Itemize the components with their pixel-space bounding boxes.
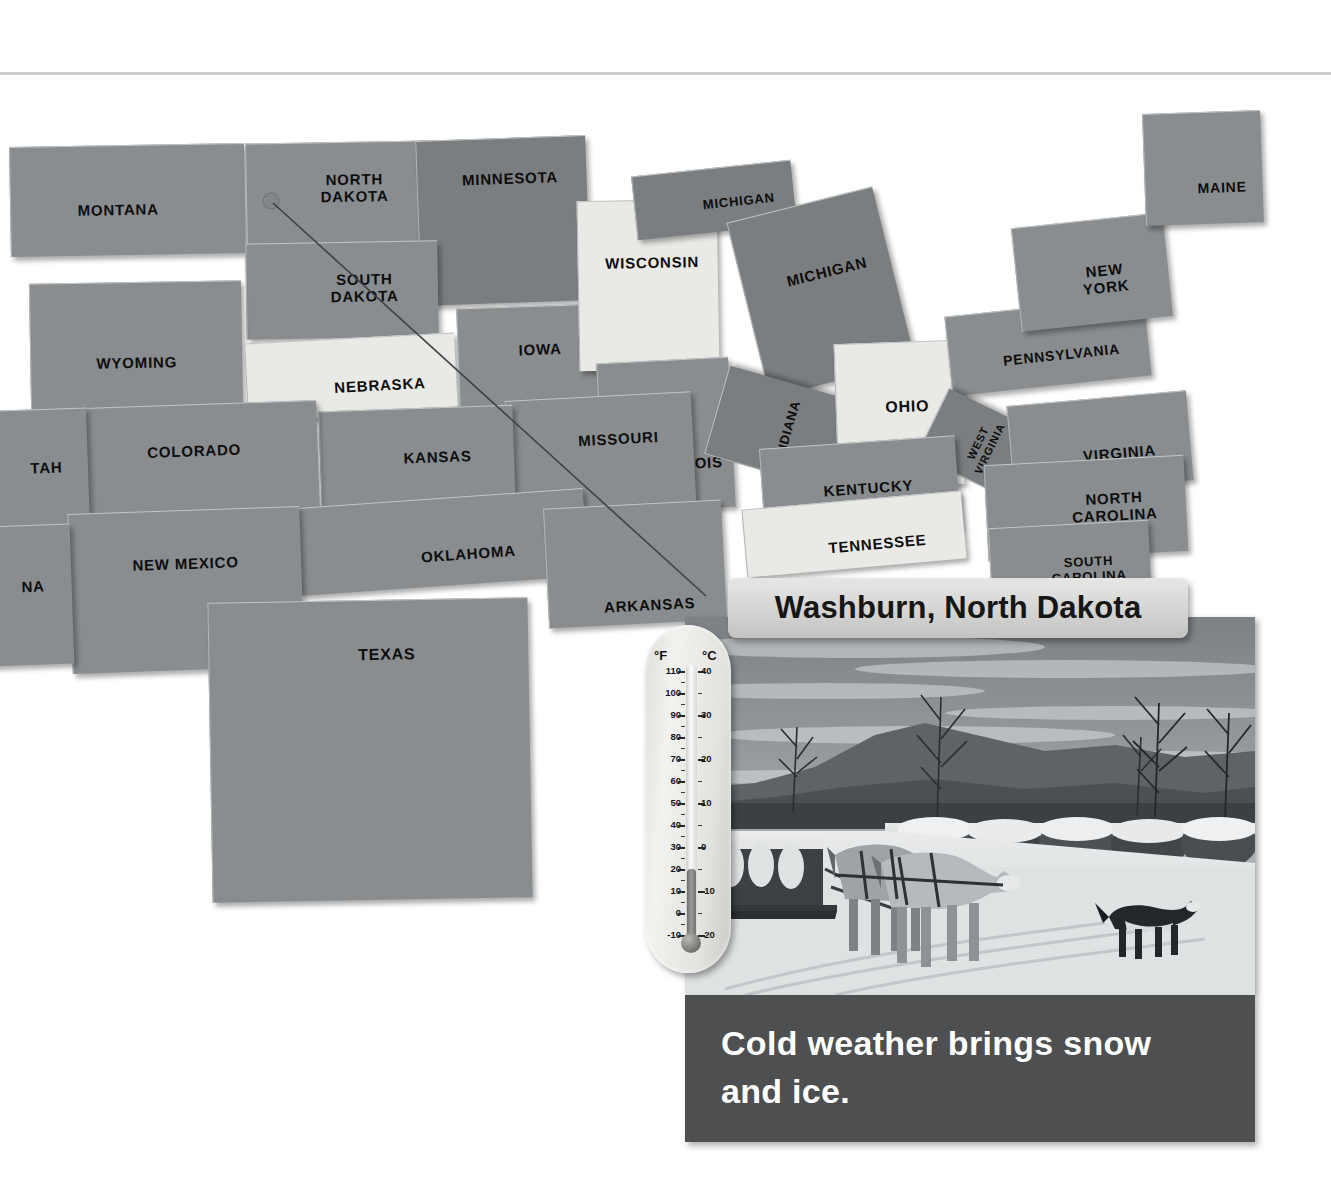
- thermometer-f-tick: [678, 759, 685, 761]
- thermometer-f-tick: [678, 781, 685, 783]
- thermometer-f-minor-tick: [681, 858, 685, 859]
- map-piece-north-dakota: NORTHDAKOTA: [245, 140, 427, 243]
- thermometer-f-minor-tick: [681, 682, 685, 683]
- thermometer-f-minor-tick: [681, 704, 685, 705]
- thermometer-f-tick: [678, 737, 685, 739]
- photo-callout: Cold weather brings snow and ice.: [685, 617, 1255, 1142]
- map-piece-label: NA: [19, 577, 47, 597]
- map-piece-minnesota: MINNESOTA: [415, 135, 591, 306]
- thermometer-f-minor-tick: [681, 770, 685, 771]
- thermometer-f-minor-tick: [681, 880, 685, 881]
- thermometer-mercury: [687, 869, 696, 940]
- thermometer-c-minor-tick: [698, 825, 702, 826]
- thermometer-c-minor-tick: [698, 869, 702, 870]
- map-piece-label: PENNSYLVANIA: [1000, 340, 1122, 370]
- thermometer-c-tick: [698, 847, 705, 849]
- photo-caption-block: Cold weather brings snow and ice.: [685, 995, 1255, 1142]
- thermometer-f-tick: [678, 891, 685, 893]
- map-piece-label: TEXAS: [356, 644, 418, 665]
- textbook-page: MONTANANORTHDAKOTAMINNESOTASOUTHDAKOTAWY…: [0, 0, 1331, 1199]
- thermometer-f-minor-tick: [681, 836, 685, 837]
- map-piece-label: SOUTHDAKOTA: [328, 270, 400, 307]
- thermometer-c-tick: [698, 759, 705, 761]
- thermometer-c-minor-tick: [698, 781, 702, 782]
- map-piece-new-york: NEWYORK: [1011, 212, 1173, 331]
- map-piece-montana: MONTANA: [9, 143, 246, 257]
- map-piece-label: MICHIGAN: [783, 253, 871, 292]
- thermometer-c-minor-tick: [698, 913, 702, 914]
- map-piece-maine: MAINE: [1142, 110, 1264, 226]
- thermometer-f-tick: [678, 825, 685, 827]
- thermometer-f-tick: [678, 913, 685, 915]
- thermometer-c-tick: [698, 671, 705, 673]
- photo-caption: Cold weather brings snow and ice.: [721, 1019, 1221, 1116]
- dual-scale-thermometer: °F °C 1101009080706050403020100-10403020…: [645, 625, 731, 973]
- map-piece-south-dakota: SOUTHDAKOTA: [245, 240, 439, 339]
- map-piece-label: ARKANSAS: [602, 594, 698, 618]
- thermometer-c-tick: [698, 891, 705, 893]
- thermometer-tube: [686, 665, 697, 940]
- map-piece-label: KANSAS: [401, 447, 474, 468]
- map-piece-label: MISSOURI: [576, 428, 661, 451]
- winter-scene-photo: [685, 617, 1255, 995]
- thermometer-f-minor-tick: [681, 814, 685, 815]
- thermometer-f-minor-tick: [681, 902, 685, 903]
- thermometer-f-tick: [678, 803, 685, 805]
- map-piece-arkansas: ARKANSAS: [543, 499, 727, 628]
- thermometer-c-tick: [698, 715, 705, 717]
- thermometer-c-minor-tick: [698, 737, 702, 738]
- map-piece-label: OKLAHOMA: [419, 542, 519, 568]
- thermometer-f-tick: [678, 847, 685, 849]
- map-piece-tah: TAH: [0, 408, 90, 531]
- fahrenheit-unit-label: °F: [654, 648, 667, 663]
- thermometer-f-tick: [678, 869, 685, 871]
- thermometer-f-tick: [678, 671, 685, 673]
- map-piece-wyoming: WYOMING: [29, 280, 243, 410]
- thermometer-bulb: [681, 933, 701, 953]
- thermometer-f-tick: [678, 715, 685, 717]
- map-piece-na: NA: [0, 524, 74, 669]
- map-piece-label: MONTANA: [75, 201, 160, 221]
- map-piece-label: WYOMING: [94, 353, 179, 373]
- map-piece-label: WISCONSIN: [603, 253, 701, 274]
- map-piece-label: NEW MEXICO: [130, 553, 241, 576]
- place-name-label: Washburn, North Dakota: [775, 590, 1142, 626]
- map-piece-label: IOWA: [516, 340, 564, 360]
- map-piece-label: OHIO: [883, 395, 932, 417]
- map-piece-label: MICHIGAN: [700, 190, 777, 214]
- map-piece-label: TAH: [28, 458, 65, 478]
- map-piece-label: NEBRASKA: [332, 374, 428, 398]
- place-name-plaque: Washburn, North Dakota: [728, 578, 1188, 638]
- map-piece-label: NORTHDAKOTA: [318, 170, 390, 207]
- thermometer-f-tick: [678, 693, 685, 695]
- map-piece-kansas: KANSAS: [318, 405, 515, 508]
- thermometer-f-minor-tick: [681, 748, 685, 749]
- map-piece-label: NEWYORK: [1078, 259, 1132, 300]
- map-piece-label: MAINE: [1195, 178, 1249, 198]
- thermometer-f-minor-tick: [681, 792, 685, 793]
- thermometer-c-tick: [698, 803, 705, 805]
- map-piece-colorado: COLORADO: [84, 400, 320, 518]
- map-piece-label: COLORADO: [145, 441, 244, 463]
- map-piece-label: MINNESOTA: [460, 168, 561, 190]
- thermometer-c-minor-tick: [698, 693, 702, 694]
- celsius-unit-label: °C: [702, 648, 717, 663]
- map-piece-texas: TEXAS: [207, 597, 532, 903]
- thermometer-f-minor-tick: [681, 726, 685, 727]
- thermometer-f-minor-tick: [681, 924, 685, 925]
- winter-scene-illustration: [685, 617, 1255, 995]
- map-piece-label: TENNESSEE: [826, 531, 929, 559]
